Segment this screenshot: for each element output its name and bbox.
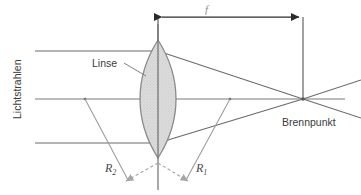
label-radius-r1: R1 [196,162,207,177]
refracted-ray-top [158,51,303,99]
radius-r1-subscript: 1 [203,168,207,177]
refracted-rays [158,51,345,143]
linse-leader-line [124,63,146,76]
label-linse: Linse [92,58,117,69]
radius-arrow-r2 [126,163,158,181]
radius-dashed-arrows [126,163,188,181]
label-focal-length: f [205,4,208,15]
label-radius-r2: R2 [105,162,116,177]
diverging-ray-upper [303,80,361,99]
radius-r2-subscript: 2 [112,168,116,177]
optics-svg-canvas [0,0,361,195]
optics-diagram: Lichtstrahlen Linse Brennpunkt f R2 R1 [0,0,361,195]
label-brennpunkt: Brennpunkt [282,117,336,128]
focal-point-marker [301,97,305,101]
radius-arrow-r1 [158,163,188,181]
label-lichtstrahlen: Lichtstrahlen [12,46,23,132]
radius-line-r1 [186,99,230,180]
